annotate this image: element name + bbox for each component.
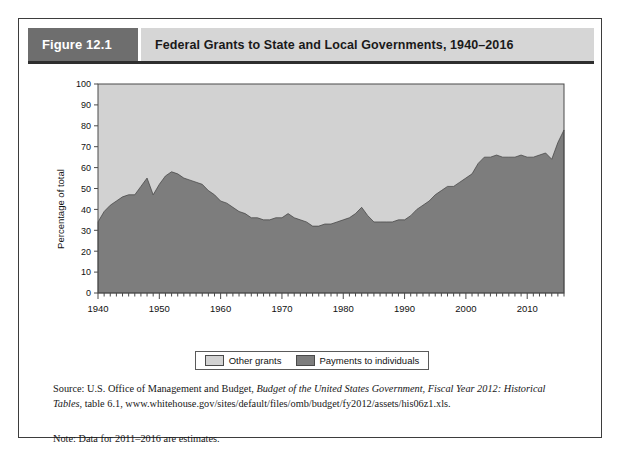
payments-to-individuals-swatch — [296, 355, 315, 366]
source-suffix: , table 6.1, www.whitehouse.gov/sites/de… — [80, 398, 451, 409]
svg-text:1950: 1950 — [149, 303, 170, 314]
legend-label-other-grants: Other grants — [229, 355, 282, 366]
figure-header: Figure 12.1 Federal Grants to State and … — [28, 28, 594, 64]
y-axis: 0102030405060708090100 — [76, 79, 98, 298]
source-prefix: Source: U.S. Office of Management and Bu… — [53, 383, 256, 394]
svg-text:100: 100 — [76, 79, 91, 89]
svg-text:70: 70 — [81, 142, 91, 152]
legend-item-other-grants: Other grants — [205, 355, 282, 366]
svg-text:1960: 1960 — [210, 303, 231, 314]
figure-container: Figure 12.1 Federal Grants to State and … — [18, 18, 602, 438]
svg-text:80: 80 — [81, 121, 91, 131]
stacked-area-chart: Percentage of total 01020304050607080901… — [52, 79, 572, 379]
svg-text:1970: 1970 — [271, 303, 292, 314]
other-grants-swatch — [205, 355, 224, 366]
svg-text:40: 40 — [81, 205, 91, 215]
svg-text:2010: 2010 — [517, 303, 538, 314]
svg-text:10: 10 — [81, 267, 91, 277]
legend-item-payments-to-individuals: Payments to individuals — [296, 355, 420, 366]
chart-legend: Other grants Payments to individuals — [52, 351, 572, 370]
svg-text:60: 60 — [81, 163, 91, 173]
svg-text:1980: 1980 — [333, 303, 354, 314]
legend-box: Other grants Payments to individuals — [195, 351, 430, 370]
svg-text:2000: 2000 — [455, 303, 476, 314]
svg-text:30: 30 — [81, 226, 91, 236]
svg-text:1940: 1940 — [87, 303, 108, 314]
x-axis: 19401950196019701980199020002010 — [87, 293, 564, 314]
source-note: Source: U.S. Office of Management and Bu… — [53, 381, 569, 411]
chart-area: Percentage of total 01020304050607080901… — [52, 79, 572, 379]
figure-title: Federal Grants to State and Local Govern… — [138, 28, 594, 61]
svg-text:20: 20 — [81, 247, 91, 257]
svg-text:1990: 1990 — [394, 303, 415, 314]
svg-text:50: 50 — [81, 184, 91, 194]
figure-footnotes: Source: U.S. Office of Management and Bu… — [53, 381, 569, 446]
y-axis-title: Percentage of total — [55, 169, 66, 249]
plot-layer — [98, 84, 564, 293]
svg-text:0: 0 — [86, 288, 91, 298]
svg-text:90: 90 — [81, 100, 91, 110]
legend-label-payments-to-individuals: Payments to individuals — [320, 355, 420, 366]
data-note: Note: Data for 2011–2016 are estimates. — [53, 431, 569, 446]
figure-number-label: Figure 12.1 — [28, 28, 138, 61]
